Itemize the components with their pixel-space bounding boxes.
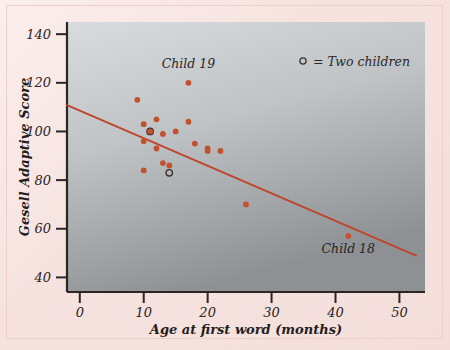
x-tick-label: 30 [263,305,280,320]
data-point [160,160,166,166]
data-point [154,146,160,152]
x-axis-tick-labels: 01020304050 [76,305,408,320]
x-tick-label: 10 [135,305,152,320]
plot-svg: 406080100120140 01020304050 Child 19Chil… [0,0,450,350]
data-point [147,129,153,135]
x-tick-label: 20 [198,305,216,320]
y-axis-title: Gesell Adaptive Score [17,78,32,236]
data-point [160,131,166,137]
data-point [154,116,160,122]
annotation-label: Child 19 [162,56,216,71]
y-tick-label: 40 [33,270,51,285]
y-tick-label: 140 [26,27,51,42]
data-point [205,148,211,154]
legend-label: = Two children [313,54,410,69]
data-point [141,138,147,144]
data-point [186,80,192,86]
data-point [186,119,192,125]
x-axis-title: Age at first word (months) [148,322,342,337]
annotation-label: Child 18 [322,241,376,256]
data-point [141,121,147,127]
x-axis-ticks [80,292,400,303]
data-point [243,202,249,208]
y-tick-label: 60 [34,221,51,236]
data-point [141,167,147,173]
data-point [134,97,140,103]
x-tick-label: 40 [326,305,344,320]
y-tick-label: 80 [34,173,51,188]
x-tick-label: 0 [76,305,84,320]
data-point [218,148,224,154]
data-point [345,233,351,239]
data-point [173,129,179,135]
y-axis-ticks [56,34,67,277]
scatterplot-figure: 406080100120140 01020304050 Child 19Chil… [0,0,450,350]
data-point [192,141,198,147]
data-point [166,163,172,169]
x-tick-label: 50 [391,305,408,320]
legend: = Two children [300,54,410,69]
